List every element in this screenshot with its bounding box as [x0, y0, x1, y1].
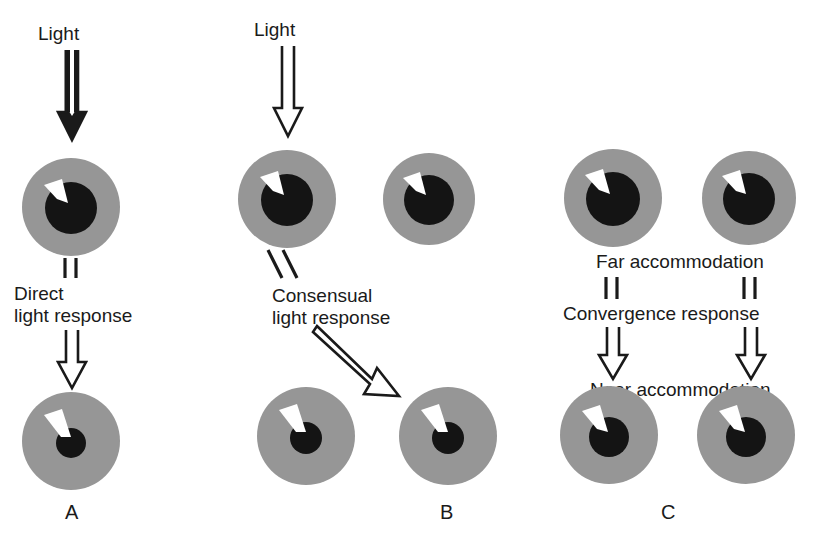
pupillary-reflex-figure: Light Direct light response: [0, 0, 827, 551]
eye-c-top-left: [563, 148, 663, 248]
convergence-arrow-left: [594, 327, 634, 383]
convergence-stems-left: [602, 277, 624, 301]
panel-c: Far accommodation Convergence response: [0, 0, 827, 551]
convergence-arrow-right: [732, 327, 772, 383]
convergence-stems-right: [740, 277, 762, 301]
eye-c-bottom-left: [559, 385, 659, 485]
panel-letter-c: C: [661, 501, 675, 524]
eye-c-top-right: [701, 150, 797, 246]
convergence-response-label: Convergence response: [563, 302, 759, 325]
far-accommodation-label: Far accommodation: [596, 250, 764, 273]
eye-c-bottom-right: [696, 385, 796, 485]
